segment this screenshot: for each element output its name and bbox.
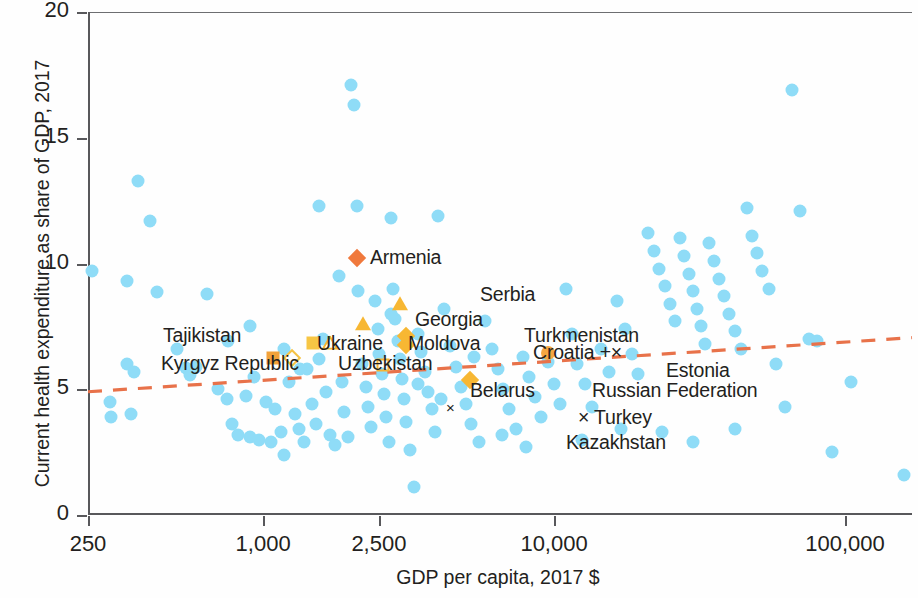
- annotation-label: Kyrgyz Republic: [161, 352, 299, 375]
- annotation-label: Belarus: [470, 379, 535, 402]
- highlight-marker-georgia: [355, 316, 371, 330]
- trendline-svg: [0, 0, 918, 598]
- annotation-label: Uzbekistan: [338, 352, 432, 375]
- annotation-label: Russian Federation: [592, 379, 758, 402]
- annotation-label: Croatia +×: [533, 341, 622, 364]
- annotation-label: Armenia: [370, 246, 441, 269]
- annotation-label: Kazakhstan: [566, 431, 666, 454]
- annotation-label: Serbia: [480, 283, 535, 306]
- scatter-chart-figure: Current health expenditure as share of G…: [0, 0, 918, 598]
- annotation-label: × Turkey: [578, 406, 652, 429]
- annotation-label: Georgia: [415, 308, 483, 331]
- annotation-label: Tajikistan: [163, 324, 241, 347]
- highlight-marker-turkey: ×: [444, 402, 456, 414]
- highlight-marker-serbia: [392, 296, 408, 310]
